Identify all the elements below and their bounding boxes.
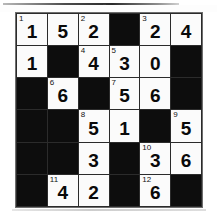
- grid-cell-block: [48, 110, 78, 141]
- grid-cell-block: [140, 110, 170, 141]
- grid-cell-block: [17, 143, 47, 174]
- grid-cell-open[interactable]: 75: [110, 78, 140, 109]
- grid-cell-open[interactable]: 6: [140, 78, 170, 109]
- cell-digit: 6: [181, 151, 192, 170]
- cell-digit: 0: [150, 54, 161, 73]
- grid-cell-open[interactable]: 114: [48, 175, 78, 206]
- clue-number: 7: [112, 78, 116, 88]
- clue-number: 4: [81, 46, 85, 56]
- grid-cell-block: [17, 78, 47, 109]
- grid-cell-open[interactable]: 1: [17, 46, 47, 77]
- puzzle-grid[interactable]: 115223241445306675685195310361142126: [15, 12, 203, 208]
- cell-digit: 5: [88, 119, 99, 138]
- clue-number: 8: [81, 110, 85, 120]
- cell-digit: 2: [88, 22, 99, 41]
- puzzle-page: 115223241445306675685195310361142126: [0, 0, 217, 214]
- cell-digit: 4: [57, 183, 68, 202]
- cell-digit: 6: [57, 86, 68, 105]
- grid-cell-open[interactable]: 6: [171, 143, 201, 174]
- grid-cell-open[interactable]: 2: [79, 175, 109, 206]
- grid-cell-block: [17, 110, 47, 141]
- cell-digit: 5: [119, 86, 130, 105]
- clue-number: 2: [81, 14, 85, 24]
- grid-cell-open[interactable]: 85: [79, 110, 109, 141]
- cell-digit: 1: [27, 54, 38, 73]
- clue-number: 6: [50, 78, 54, 88]
- grid-cell-open[interactable]: 1: [110, 110, 140, 141]
- cell-digit: 3: [150, 151, 161, 170]
- grid-cell-open[interactable]: 22: [79, 14, 109, 45]
- grid-cell-open[interactable]: 53: [110, 46, 140, 77]
- grid-cell-open[interactable]: 4: [171, 14, 201, 45]
- grid-cell-open[interactable]: 126: [140, 175, 170, 206]
- grid-cell-open[interactable]: 44: [79, 46, 109, 77]
- grid-cell-open[interactable]: 32: [140, 14, 170, 45]
- grid-cell-block: [48, 143, 78, 174]
- cell-digit: 4: [181, 22, 192, 41]
- grid-cell-open[interactable]: 103: [140, 143, 170, 174]
- grid-cell-block: [110, 143, 140, 174]
- cell-digit: 5: [181, 119, 192, 138]
- grid-cell-open[interactable]: 5: [48, 14, 78, 45]
- cell-digit: 3: [119, 54, 130, 73]
- clue-number: 1: [19, 14, 23, 24]
- cell-digit: 2: [88, 183, 99, 202]
- cell-digit: 5: [57, 22, 68, 41]
- cell-digit: 3: [88, 151, 99, 170]
- grid-cell-block: [110, 175, 140, 206]
- clue-number: 9: [173, 110, 177, 120]
- grid-cell-block: [48, 46, 78, 77]
- cell-digit: 1: [119, 119, 130, 138]
- grid-cell-open[interactable]: 11: [17, 14, 47, 45]
- cell-digit: 6: [150, 183, 161, 202]
- scan-edge-artifact-bottom: [12, 209, 206, 211]
- grid-cell-block: [110, 14, 140, 45]
- grid-cell-open[interactable]: 3: [79, 143, 109, 174]
- grid-cell-open[interactable]: 66: [48, 78, 78, 109]
- grid-cell-block: [171, 78, 201, 109]
- cell-digit: 6: [150, 86, 161, 105]
- clue-number: 3: [142, 14, 146, 24]
- cell-digit: 4: [88, 54, 99, 73]
- cell-digit: 1: [27, 22, 38, 41]
- grid-cell-block: [79, 78, 109, 109]
- grid-cell-block: [171, 46, 201, 77]
- clue-number: 5: [112, 46, 116, 56]
- paper-background-top: [0, 5, 217, 12]
- grid-cell-open[interactable]: 95: [171, 110, 201, 141]
- grid-cell-open[interactable]: 0: [140, 46, 170, 77]
- cell-digit: 2: [150, 22, 161, 41]
- grid-cell-block: [17, 175, 47, 206]
- grid-cell-block: [171, 175, 201, 206]
